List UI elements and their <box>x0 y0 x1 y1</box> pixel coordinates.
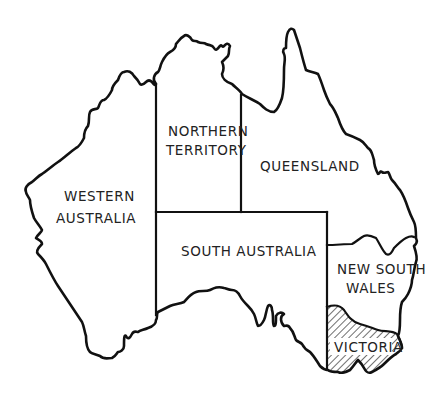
label-south-australia: SOUTH AUSTRALIA <box>181 243 317 259</box>
label-queensland: QUEENSLAND <box>260 158 360 174</box>
svg-text:QUEENSLAND: QUEENSLAND <box>260 158 360 174</box>
svg-text:NEW SOUTH: NEW SOUTH <box>337 261 426 277</box>
svg-text:WESTERN: WESTERN <box>64 188 135 204</box>
svg-text:TERRITORY: TERRITORY <box>165 142 247 158</box>
svg-text:NORTHERN: NORTHERN <box>168 123 248 139</box>
qld-nsw-border <box>327 235 414 254</box>
svg-text:SOUTH AUSTRALIA: SOUTH AUSTRALIA <box>181 243 317 259</box>
label-western-australia: WESTERN AUSTRALIA <box>56 188 136 226</box>
svg-text:AUSTRALIA: AUSTRALIA <box>56 210 136 226</box>
label-victoria: VICTORIA <box>334 339 403 355</box>
australia-map: WESTERN AUSTRALIA NORTHERN TERRITORY QUE… <box>0 0 441 396</box>
label-northern-territory: NORTHERN TERRITORY <box>165 123 248 158</box>
svg-text:VICTORIA: VICTORIA <box>334 339 403 355</box>
svg-text:WALES: WALES <box>346 280 395 296</box>
